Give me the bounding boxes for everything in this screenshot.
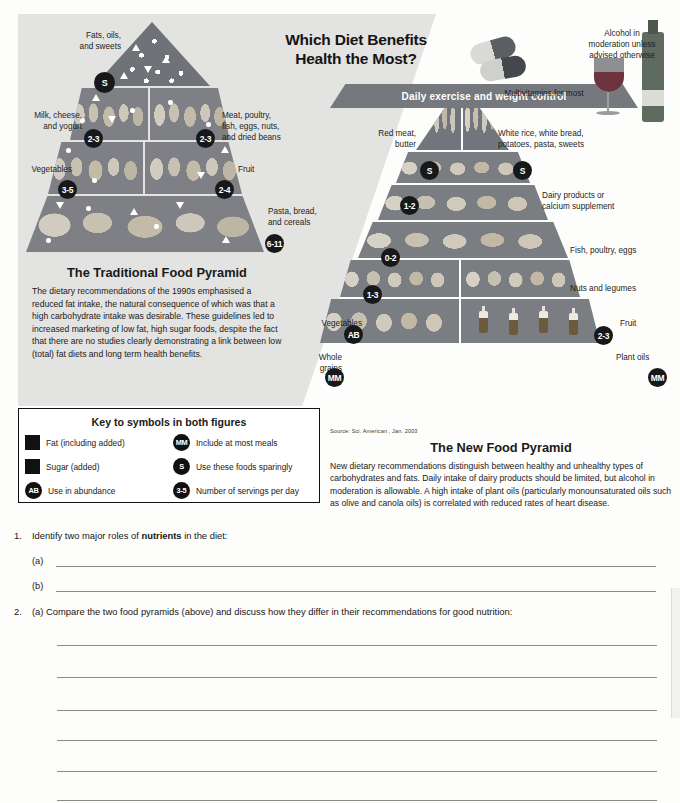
page-edge-shadow [671,588,680,718]
servings-circle-icon: 3-5 [173,482,190,499]
badge-sparingly-refined-carbs: S [513,161,532,180]
key-label-most-meals: Include at most meals [196,438,277,448]
badge-most-meals-oils: MM [648,368,667,387]
label-nuts-legumes: Nuts and legumes [570,283,674,294]
label-plant-oils: Plant oils [616,352,672,363]
answer-line[interactable] [57,710,657,711]
mm-circle-icon: MM [173,434,190,451]
page-title-line1: Which Diet Benefits [246,30,466,49]
tier-meat-poultry-fish [150,88,230,140]
badge-abundance-vegetables: AB [344,325,363,344]
worksheet-page: Which Diet Benefits Health the Most? [0,0,680,803]
badge-servings-vegetables: 3-5 [58,180,77,199]
key-title: Key to symbols in both figures [19,416,319,428]
sugar-triangle-icon [221,146,229,153]
traditional-pyramid-caption: The Traditional Food Pyramid The dietary… [32,265,282,361]
ab-circle-icon: AB [25,482,42,499]
fat-dot-icon [92,178,97,183]
question-1-number: 1. [14,530,22,541]
sugar-triangle-icon [25,459,40,474]
key-label-sugar: Sugar (added) [46,462,100,472]
label-fruit-new: Fruit [620,318,660,329]
sugar-triangle-icon [108,116,116,123]
key-label-abundance: Use in abundance [48,486,116,496]
key-item-most-meals: MM Include at most meals [173,434,323,451]
key-label-fat: Fat (including added) [46,438,125,448]
badge-servings-nuts: 1-3 [363,285,382,304]
answer-label-1b: (b) [32,581,43,591]
answer-line[interactable] [57,800,657,801]
badge-most-meals-grains: MM [325,368,344,387]
sugar-triangle-icon [56,202,64,209]
dairy-image [396,152,530,183]
tier-vegetables-new [340,260,459,297]
source-citation: Source: Sci. American , Jan. 2003 [330,428,418,434]
label-white-rice-bread: White rice, white bread, potatoes, pasta… [498,128,618,150]
tier-plant-oils [461,299,600,343]
traditional-pyramid-body: The dietary recommendations of the 1990s… [32,285,282,361]
badge-servings-fruit: 2-4 [215,180,234,199]
key-item-abundance: AB Use in abundance [25,482,173,499]
badge-sparingly-fats: S [94,72,115,93]
traditional-pyramid-title: The Traditional Food Pyramid [32,265,282,280]
tier-pasta-bread-cereals [26,196,264,252]
fat-dot-icon [25,435,40,450]
key-label-sparingly: Use these foods sparingly [196,462,292,472]
fat-dot-icon [66,148,71,153]
page-title-line2: Health the Most? [246,49,466,68]
answer-label-1a: (a) [32,556,43,566]
answer-line-1b[interactable] [56,591,656,592]
sugar-triangle-icon [197,172,205,179]
vegetables-image [340,260,459,297]
label-meat-poultry-fish: Meat, poultry, fish, eggs, nuts, and dri… [222,110,308,143]
key-label-servings: Number of servings per day [196,486,299,496]
label-vegetables-trad: Vegetables [16,164,72,175]
badge-servings-dairy: 2-3 [84,129,103,148]
key-grid: Fat (including added) MM Include at most… [19,434,319,499]
fat-dot-icon [154,224,159,229]
new-pyramid-caption: The New Food Pyramid New dietary recomme… [330,440,672,510]
answer-line[interactable] [57,645,657,646]
question-2-number: 2. [14,606,22,617]
answer-line[interactable] [57,771,657,772]
label-fruit-trad: Fruit [238,164,278,175]
key-item-fat: Fat (including added) [25,434,173,451]
label-fats-oils-sweets: Fats, oils, and sweets [46,30,121,52]
badge-servings-fish: 0-2 [381,248,400,267]
key-to-symbols-box: Key to symbols in both figures Fat (incl… [18,408,320,503]
badge-servings-grains: 6-11 [265,234,284,253]
s-circle-icon: S [173,458,190,475]
tier-fruit-new [461,260,580,297]
multivitamin-capsules-image [470,36,556,84]
sugar-triangle-icon [120,72,128,79]
label-milk-cheese-yogurt: Milk, cheese, and yogurt [20,110,82,132]
sugar-triangle-icon [130,208,138,215]
label-fish-poultry-eggs: Fish, poultry, eggs [570,245,670,256]
fat-dot-icon [206,122,211,127]
protein-foods-image [150,88,230,140]
label-alcohol: Alcohol in moderation unless advised oth… [570,28,674,61]
fat-dot-icon [130,108,135,113]
question-2-text: (a) Compare the two food pyramids (above… [32,606,662,617]
sugar-triangle-icon [144,66,152,73]
answer-line[interactable] [57,740,657,741]
label-pasta-bread-cereals: Pasta, bread, and cereals [268,206,348,228]
answer-line[interactable] [57,677,657,678]
fruit-image [461,260,580,297]
label-dairy: Dairy products or calcium supplement [542,190,652,212]
answer-line-1a[interactable] [56,566,656,567]
new-pyramid-title: The New Food Pyramid [330,440,672,455]
fat-dot-icon [46,238,51,243]
sugar-triangle-icon [222,236,230,243]
fat-dot-icon [168,100,173,105]
tier-dairy [396,152,530,183]
badge-servings-fruit-new: 2-3 [594,326,613,345]
badge-servings-dairy-new: 1-2 [400,196,419,215]
question-1-text: Identify two major roles of nutrients in… [32,530,452,541]
sugar-triangle-icon [162,56,170,63]
badge-servings-meat: 2-3 [196,129,215,148]
key-item-sugar: Sugar (added) [25,458,173,475]
sugar-triangle-icon [176,202,184,209]
new-pyramid-body: New dietary recommendations distinguish … [330,460,672,510]
label-multivitamins: Multivitamins for most [484,88,604,99]
